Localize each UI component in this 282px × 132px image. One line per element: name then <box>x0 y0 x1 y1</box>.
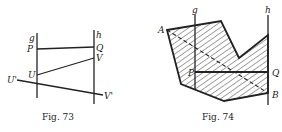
label-q: Q <box>272 68 280 78</box>
segment-uv <box>37 58 94 75</box>
segment-pq <box>37 47 94 49</box>
label-a: A <box>157 25 165 35</box>
label-b: B <box>271 90 279 100</box>
caption-fig-74: Fig. 74 <box>202 112 234 122</box>
caption-fig-73: Fig. 73 <box>42 112 74 122</box>
label-p: P <box>26 44 34 54</box>
label-u-prime: U' <box>7 75 17 85</box>
label-v: V <box>96 53 104 63</box>
figure-73: g h P Q U V U' V' Fig. 73 <box>7 30 113 122</box>
figure-74: g h A B P Q Fig. 74 <box>157 5 280 122</box>
segment-u-prime-v-prime <box>17 80 103 95</box>
label-g: g <box>192 5 198 15</box>
label-p: P <box>187 68 195 78</box>
label-h: h <box>265 5 271 15</box>
label-h: h <box>96 30 102 40</box>
label-g: g <box>29 33 35 43</box>
label-q: Q <box>96 43 104 53</box>
label-v-prime: V' <box>104 91 113 101</box>
label-u: U <box>28 70 36 80</box>
figures-canvas: g h P Q U V U' V' Fig. 73 g h A B P Q Fi… <box>0 0 282 132</box>
